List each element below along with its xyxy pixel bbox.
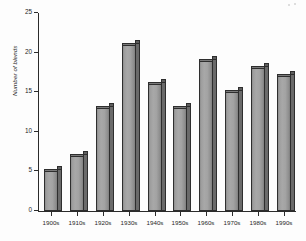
bar-top-bevel — [186, 103, 191, 107]
bar — [44, 167, 63, 211]
bar-top-bevel — [238, 87, 243, 91]
bar-top-bevel — [57, 166, 62, 170]
bar-top-bevel — [83, 151, 88, 155]
bar — [199, 57, 218, 211]
plot-area: 0510152025 1900s1910s1920s1930s1940s1950… — [38, 13, 296, 212]
bar — [173, 104, 192, 211]
bar — [277, 72, 296, 211]
bar-top-face — [251, 66, 265, 69]
bar-front-face — [70, 156, 84, 211]
bar-front-face — [173, 108, 187, 211]
y-tick-label: 0 — [28, 206, 32, 214]
y-tick: 10 — [34, 131, 38, 132]
bar-front-face — [277, 76, 291, 211]
bar-top-bevel — [161, 79, 166, 83]
bar — [122, 41, 141, 211]
y-tick: 0 — [34, 210, 38, 211]
x-tick-label: 1910s — [64, 219, 90, 227]
y-tick-label: 10 — [25, 127, 32, 135]
bar-top-face — [122, 43, 136, 46]
x-tick-label: 1920s — [90, 219, 116, 227]
x-tick-label: 1970s — [219, 219, 245, 227]
x-tick-label: 1940s — [142, 219, 168, 227]
bar-top-face — [199, 59, 213, 62]
y-tick-label: 15 — [25, 87, 32, 95]
bar-front-face — [199, 61, 213, 211]
bar-top-bevel — [109, 103, 114, 107]
x-tick — [51, 212, 52, 216]
bar-front-face — [225, 92, 239, 211]
x-tick-label: 1980s — [245, 219, 271, 227]
bar-top-bevel — [135, 40, 140, 44]
bar-front-face — [148, 84, 162, 211]
y-axis-title: Number of blends — [11, 6, 18, 96]
y-tick-label: 20 — [25, 48, 32, 56]
x-tick — [284, 212, 285, 216]
bar-top-face — [96, 106, 110, 109]
bar-front-face — [96, 108, 110, 211]
x-tick-label: 1950s — [167, 219, 193, 227]
x-tick-label: 1930s — [116, 219, 142, 227]
bar-top-bevel — [290, 71, 295, 75]
scan-artifact — [286, 2, 302, 10]
bar-chart: Number of blends 0510152025 1900s1910s19… — [0, 0, 306, 241]
x-tick — [232, 212, 233, 216]
x-tick — [258, 212, 259, 216]
y-axis-line — [38, 13, 39, 212]
bar-top-face — [277, 74, 291, 77]
x-tick — [103, 212, 104, 216]
x-tick — [180, 212, 181, 216]
x-tick — [129, 212, 130, 216]
bar-front-face — [44, 171, 58, 211]
y-tick: 20 — [34, 52, 38, 53]
y-tick-label: 5 — [28, 166, 32, 174]
x-tick-label: 1900s — [38, 219, 64, 227]
y-tick: 5 — [34, 170, 38, 171]
bar-top-bevel — [264, 63, 269, 67]
bar — [70, 152, 89, 211]
bar-front-face — [251, 68, 265, 211]
bar — [148, 80, 167, 211]
bar-top-face — [44, 169, 58, 172]
bar — [225, 88, 244, 211]
bar — [251, 64, 270, 211]
x-tick-label: 1990s — [271, 219, 297, 227]
bar-top-face — [173, 106, 187, 109]
y-tick: 15 — [34, 91, 38, 92]
x-tick — [206, 212, 207, 216]
bar — [96, 104, 115, 211]
bar-top-bevel — [212, 56, 217, 60]
bar-front-face — [122, 45, 136, 211]
y-tick: 25 — [34, 12, 38, 13]
y-tick-label: 25 — [25, 8, 32, 16]
bar-top-face — [148, 82, 162, 85]
bar-top-face — [225, 90, 239, 93]
x-tick-label: 1960s — [193, 219, 219, 227]
x-tick — [77, 212, 78, 216]
bar-top-face — [70, 154, 84, 157]
x-tick — [155, 212, 156, 216]
